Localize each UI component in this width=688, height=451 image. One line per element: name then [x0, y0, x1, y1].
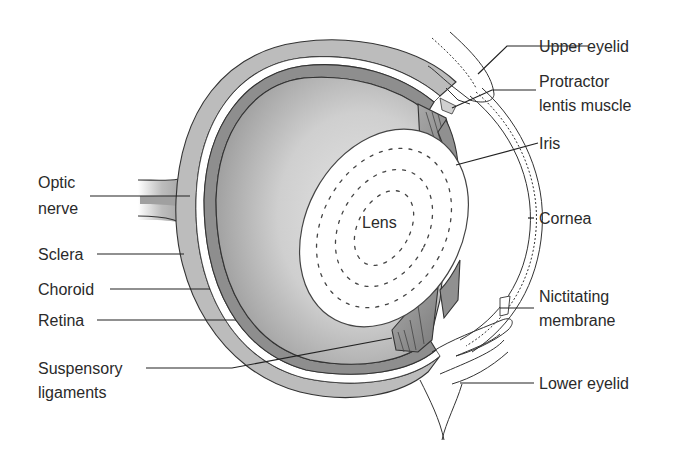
eye-anatomy-diagram: Lens Optic: [0, 0, 688, 451]
cornea-label: Cornea: [539, 210, 592, 227]
labels-right: Upper eyelid Protractor lentis muscle Ir…: [539, 38, 632, 392]
choroid-label: Choroid: [38, 281, 94, 298]
sclera-label: Sclera: [38, 246, 83, 263]
suspensory-ligaments-label-line1: Suspensory: [38, 360, 123, 377]
optic-nerve-label-line1: Optic: [38, 174, 75, 191]
nictitating-membrane-label-line1: Nictitating: [539, 288, 609, 305]
retina-label: Retina: [38, 312, 84, 329]
labels-left: Optic nerve Sclera Choroid Retina Suspen…: [38, 174, 123, 401]
iris-label: Iris: [539, 135, 560, 152]
nictitating-membrane: [500, 296, 510, 316]
protractor-lentis-label-line2: lentis muscle: [539, 97, 632, 114]
nictitating-membrane-label-line2: membrane: [539, 312, 616, 329]
lower-eyelid-label: Lower eyelid: [539, 375, 629, 392]
optic-nerve-label-line2: nerve: [38, 200, 78, 217]
lens-label: Lens: [362, 214, 397, 231]
suspensory-ligaments-label-line2: ligaments: [38, 384, 106, 401]
protractor-lentis-label-line1: Protractor: [539, 73, 610, 90]
upper-eyelid-label: Upper eyelid: [539, 38, 629, 55]
protractor-lentis-muscle: [440, 98, 456, 114]
